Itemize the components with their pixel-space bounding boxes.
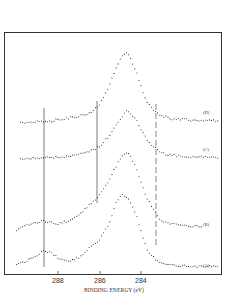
series-layer: [16, 52, 218, 268]
x-axis-title: BINDING ENERGY (eV): [84, 287, 144, 293]
series-c-dots: [20, 110, 218, 160]
series-label-b: (B): [203, 222, 209, 227]
x-tick-label-284: 284: [135, 277, 147, 284]
series-label-a: (A): [203, 263, 209, 268]
x-tick-label-288: 288: [52, 277, 64, 284]
xps-spectra-chart: [0, 0, 240, 306]
series-a-dots: [16, 194, 218, 268]
x-tick-label-286: 286: [94, 277, 106, 284]
series-d-dots: [20, 52, 218, 124]
plot-frame: [5, 33, 222, 275]
series-label-d: (D): [203, 110, 209, 115]
series-label-c: (C): [203, 147, 209, 152]
